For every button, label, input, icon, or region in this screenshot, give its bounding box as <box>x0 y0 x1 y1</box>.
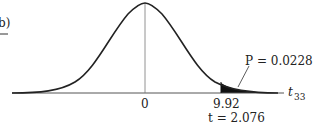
axis-label-df: 33 <box>294 92 306 102</box>
p-value-pointer <box>238 66 249 87</box>
axis-label-t: t <box>288 85 293 99</box>
p-value-label: P = 0.0228 <box>245 54 313 68</box>
t-statistic-label: t = 2.076 <box>208 111 265 125</box>
observed-value-label: 9.92 <box>213 97 240 111</box>
center-tick-label: 0 <box>141 97 149 111</box>
t-distribution-chart: b) P = 0.0228 0 9.92 t = 2.076 t 33 <box>0 0 316 134</box>
panel-label: b) <box>0 16 10 30</box>
